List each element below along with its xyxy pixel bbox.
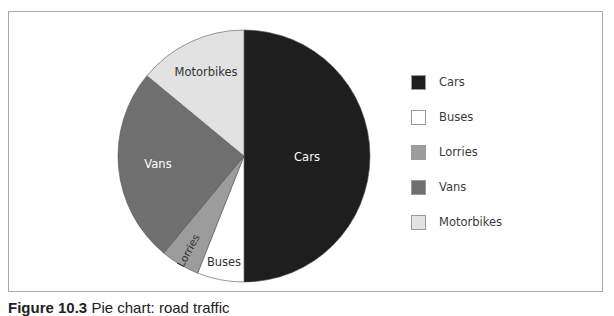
legend-item-cars: Cars <box>411 74 502 90</box>
slice-label-cars: Cars <box>294 150 320 164</box>
caption-text: Pie chart: road traffic <box>91 299 229 316</box>
slice-label-vans: Vans <box>144 157 171 171</box>
legend-label: Motorbikes <box>439 215 502 229</box>
legend-label: Buses <box>439 110 473 124</box>
legend-item-motorbikes: Motorbikes <box>411 214 502 230</box>
legend-item-lorries: Lorries <box>411 144 502 160</box>
legend-label: Cars <box>439 75 465 89</box>
legend-swatch-lorries <box>411 145 426 160</box>
legend-label: Vans <box>439 180 466 194</box>
legend-swatch-cars <box>411 75 426 90</box>
figure-caption: Figure 10.3 Pie chart: road traffic <box>8 299 230 316</box>
legend-item-buses: Buses <box>411 109 502 125</box>
slice-label-motorbikes: Motorbikes <box>174 65 237 79</box>
legend-swatch-buses <box>411 110 426 125</box>
caption-number: Figure 10.3 <box>8 299 87 316</box>
legend-swatch-motorbikes <box>411 215 426 230</box>
chart-legend: CarsBusesLorriesVansMotorbikes <box>411 74 502 249</box>
legend-label: Lorries <box>439 145 478 159</box>
legend-item-vans: Vans <box>411 179 502 195</box>
legend-swatch-vans <box>411 180 426 195</box>
slice-label-buses: Buses <box>207 255 241 269</box>
